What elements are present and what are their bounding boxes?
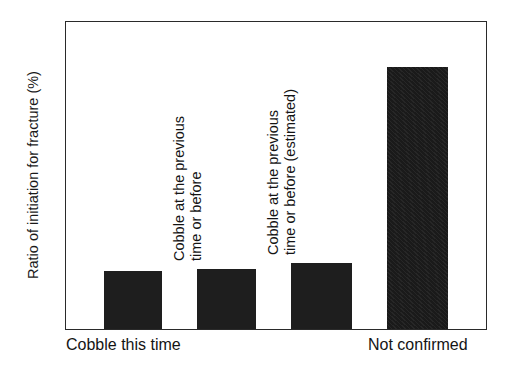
plot-area: Cobble at the previous time or before Co… bbox=[65, 21, 487, 330]
bar-annotation-line-1: Cobble at the previous bbox=[171, 116, 188, 261]
y-axis-title: Ratio of initiation for fracture (%) bbox=[25, 55, 41, 295]
category-label-not-confirmed: Not confirmed bbox=[368, 336, 468, 354]
bar-annotation-cobble-previous-estimated: Cobble at the previous time or before (e… bbox=[265, 89, 299, 255]
bar-cobble-this-time bbox=[104, 271, 162, 329]
bar-annotation-line-2: time or before bbox=[188, 116, 205, 261]
bar-chart-figure: Relation between the ratio of initiation… bbox=[0, 0, 513, 377]
bar-annotation-line-2: time or before (estimated) bbox=[282, 89, 299, 255]
bar-annotation-cobble-previous: Cobble at the previous time or before bbox=[171, 116, 205, 261]
bar-cobble-previous bbox=[197, 269, 256, 329]
category-label-cobble-this-time: Cobble this time bbox=[66, 336, 181, 354]
chart-title: Relation between the ratio of initiation… bbox=[38, 0, 478, 3]
bar-cobble-previous-estimated bbox=[291, 263, 352, 329]
bar-not-confirmed bbox=[387, 67, 448, 329]
bar-annotation-line-1: Cobble at the previous bbox=[265, 89, 282, 255]
